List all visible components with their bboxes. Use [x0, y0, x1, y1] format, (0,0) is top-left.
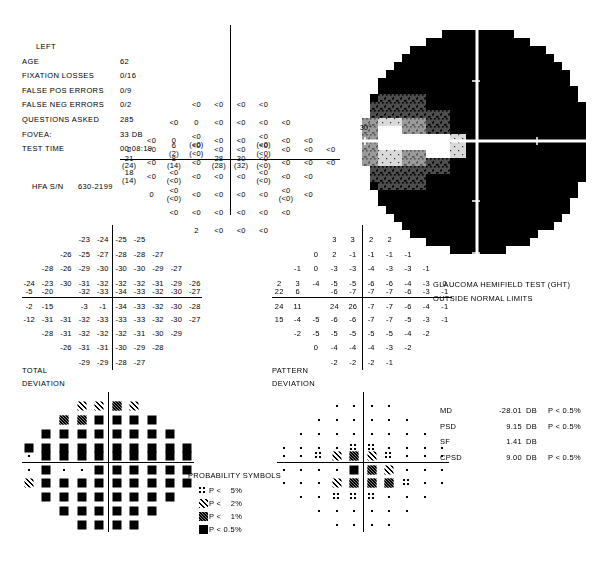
threshold-primary: <0 [147, 146, 156, 154]
deviation-value: -1 [344, 249, 361, 258]
probability-glyph [318, 447, 320, 449]
total-deviation-caption-line2: DEVIATION [22, 377, 65, 390]
normal-symbol [424, 447, 426, 449]
normal-symbol [318, 510, 320, 512]
p1-symbol [385, 478, 394, 487]
raw-threshold-value: <0(<0) [279, 187, 293, 202]
deviation-value: 3 [326, 235, 343, 244]
deviation-value: 24 [271, 301, 288, 310]
probability-glyph [388, 419, 390, 421]
raw-threshold-value: <0 [304, 191, 313, 199]
deviation-value: -33 [94, 314, 111, 323]
probability-glyph [350, 444, 358, 452]
probability-glyph [283, 469, 285, 471]
deviation-value: -32 [76, 287, 93, 296]
probability-glyph [130, 402, 139, 411]
threshold-primary: <0 [237, 137, 246, 145]
probability-glyph [318, 469, 320, 471]
p05-symbol [112, 466, 121, 475]
deviation-value: -5 [344, 278, 361, 287]
probability-glyph [95, 402, 104, 411]
probability-glyph [318, 482, 320, 484]
probability-glyph [130, 478, 139, 487]
deviation-value: -30 [168, 287, 185, 296]
deviation-value: -4 [344, 343, 361, 352]
deviation-value: 6 [289, 287, 306, 296]
deviation-value: 24 [326, 301, 343, 310]
probability-glyph [42, 430, 51, 439]
p05-symbol [148, 416, 157, 425]
probability-glyph [406, 455, 408, 457]
deviation-value: -28 [113, 249, 130, 258]
normal-symbol [406, 433, 408, 435]
raw-threshold-value: <0 [282, 159, 291, 167]
raw-threshold-value: <0 [282, 209, 291, 217]
deviation-value: -4 [363, 264, 380, 273]
legend-glyph [199, 487, 207, 495]
probability-glyph [350, 466, 359, 475]
p1-symbol [350, 478, 359, 487]
p05-symbol [112, 452, 121, 461]
global-index-row: MD-28.01DBP < 0.5% [440, 403, 581, 419]
normal-symbol [406, 419, 408, 421]
p05-symbol [60, 452, 69, 461]
deviation-value: 2 [363, 235, 380, 244]
deviation-value: -7 [344, 287, 361, 296]
p5-symbol [368, 444, 376, 452]
threshold-primary: <0 [259, 191, 268, 199]
raw-threshold-value: 0 [149, 191, 153, 199]
deviation-value: -25 [131, 235, 148, 244]
normal-symbol [424, 482, 426, 484]
normal-symbol [336, 524, 338, 526]
probability-glyph [385, 452, 393, 460]
deviation-value: -31 [58, 314, 75, 323]
normal-symbol [353, 524, 355, 526]
deviation-value: -31 [39, 314, 56, 323]
p05-symbol [165, 430, 174, 439]
normal-symbol [318, 419, 320, 421]
p2-symbol [95, 402, 104, 411]
p05-symbol [95, 492, 104, 501]
p1-symbol [60, 416, 69, 425]
probability-glyph [130, 452, 139, 461]
probability-glyph [63, 469, 65, 471]
deviation-value: -3 [326, 264, 343, 273]
probability-glyph [95, 478, 104, 487]
raw-threshold-value: <0 [259, 227, 268, 235]
probability-glyph [77, 452, 86, 461]
probability-glyph [283, 455, 285, 457]
normal-symbol [388, 447, 390, 449]
deviation-value: -32 [131, 278, 148, 287]
probability-glyph [60, 430, 69, 439]
deviation-value: -4 [363, 343, 380, 352]
deviation-value: -29 [94, 357, 111, 366]
deviation-value: -24 [94, 235, 111, 244]
total-deviation-probability-plot [22, 392, 194, 532]
legend-text: P < 2% [209, 499, 242, 508]
deviation-value: -12 [21, 314, 38, 323]
deviation-value: -31 [150, 278, 167, 287]
raw-threshold-value: <0 [214, 191, 223, 199]
normal-symbol [371, 433, 373, 435]
total-deviation-values: -23-24-25-25-26-25-27-28-28-27-28-26-29-… [22, 225, 202, 370]
raw-threshold-value: <0 [282, 119, 291, 127]
probability-glyph [60, 492, 69, 501]
p05-symbol [350, 466, 359, 475]
probability-glyph [388, 524, 390, 526]
deviation-value: -32 [76, 329, 93, 338]
raw-threshold-value: <0 [147, 146, 156, 154]
deviation-value: -7 [363, 301, 380, 310]
p1-symbol [350, 452, 359, 461]
total-deviation-numeric-plot: -23-24-25-25-26-25-27-28-28-27-28-26-29-… [22, 225, 202, 370]
p05-symbol [130, 492, 139, 501]
probability-glyph [406, 510, 408, 512]
normal-symbol [406, 469, 408, 471]
normal-symbol [424, 469, 426, 471]
probability-glyph [368, 493, 376, 501]
p05-symbol [165, 478, 174, 487]
p05-symbol [130, 520, 139, 529]
threshold-retest: (28) [212, 163, 226, 171]
probability-glyph [95, 452, 104, 461]
probability-glyph [353, 405, 355, 407]
p05-symbol [112, 416, 121, 425]
